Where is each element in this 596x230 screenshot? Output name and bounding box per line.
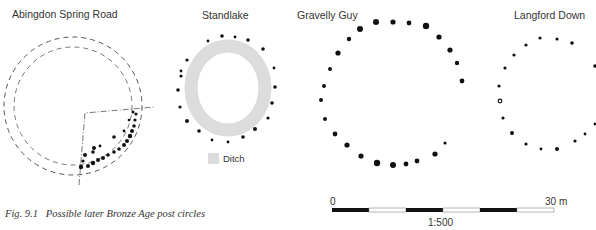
ditch-ring xyxy=(191,46,265,130)
figure-text: Possible later Bronze Age post circles xyxy=(46,208,205,219)
scale-start-label: 0 xyxy=(330,196,336,207)
gravelly-guy-plan xyxy=(319,19,464,168)
figure-caption: Fig. 9.1 Possible later Bronze Age post … xyxy=(5,208,205,219)
langford-down-plan xyxy=(497,36,596,151)
post-circle-plans xyxy=(0,0,596,230)
inner-dashed-circle xyxy=(14,47,132,165)
excavation-boundary xyxy=(79,107,155,185)
ditch-legend-label: Ditch xyxy=(223,153,245,164)
scale-ratio-label: 1:500 xyxy=(428,217,453,228)
abingdon-posts xyxy=(79,111,138,170)
standlake-plan xyxy=(176,34,277,164)
scale-end-label: 30 m xyxy=(545,196,567,207)
scale-bar xyxy=(332,208,554,212)
abingdon-plan xyxy=(4,37,155,185)
outer-dashed-circle xyxy=(4,37,142,175)
ditch-legend-swatch xyxy=(208,153,219,164)
figure-number: Fig. 9.1 xyxy=(5,208,38,219)
